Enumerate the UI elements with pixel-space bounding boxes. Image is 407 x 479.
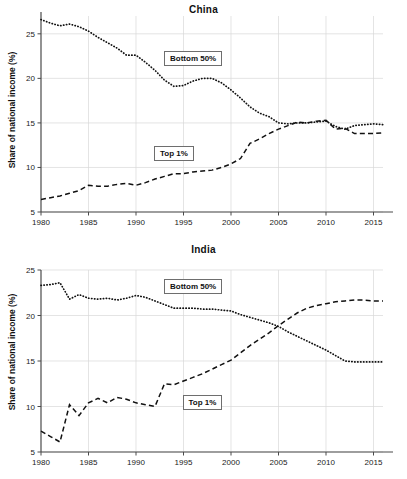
svg-text:2000: 2000 — [222, 458, 240, 467]
svg-text:2000: 2000 — [222, 218, 240, 227]
svg-text:1995: 1995 — [175, 458, 193, 467]
figure-root: China Share of national income (%) 51015… — [0, 0, 407, 479]
svg-text:2005: 2005 — [270, 458, 288, 467]
svg-text:2015: 2015 — [365, 218, 383, 227]
svg-text:25: 25 — [26, 30, 35, 39]
chart-panel-india: India Share of national income (%) 51015… — [0, 240, 407, 479]
svg-text:25: 25 — [26, 266, 35, 275]
svg-text:1980: 1980 — [32, 218, 50, 227]
svg-text:1985: 1985 — [80, 218, 98, 227]
annotation-bottom50-china: Bottom 50% — [164, 51, 222, 66]
annotation-top1-india: Top 1% — [183, 395, 223, 410]
svg-text:15: 15 — [26, 357, 35, 366]
plot-area-india: 5101520251980198519901995200020052010201… — [0, 240, 407, 479]
svg-text:2010: 2010 — [317, 218, 335, 227]
svg-text:2010: 2010 — [317, 458, 335, 467]
annotation-bottom50-india: Bottom 50% — [164, 279, 222, 294]
svg-text:20: 20 — [26, 312, 35, 321]
annotation-top1-china: Top 1% — [154, 146, 194, 161]
chart-panel-china: China Share of national income (%) 51015… — [0, 0, 407, 240]
svg-text:2005: 2005 — [270, 218, 288, 227]
svg-text:5: 5 — [31, 448, 36, 457]
svg-text:10: 10 — [26, 163, 35, 172]
svg-text:1985: 1985 — [80, 458, 98, 467]
svg-text:15: 15 — [26, 119, 35, 128]
svg-text:1995: 1995 — [175, 218, 193, 227]
svg-text:10: 10 — [26, 403, 35, 412]
svg-text:1990: 1990 — [127, 458, 145, 467]
plot-area-china: 5101520251980198519901995200020052010201… — [0, 0, 407, 240]
svg-text:2015: 2015 — [365, 458, 383, 467]
svg-text:1990: 1990 — [127, 218, 145, 227]
svg-text:5: 5 — [31, 208, 36, 217]
svg-text:20: 20 — [26, 74, 35, 83]
svg-text:1980: 1980 — [32, 458, 50, 467]
